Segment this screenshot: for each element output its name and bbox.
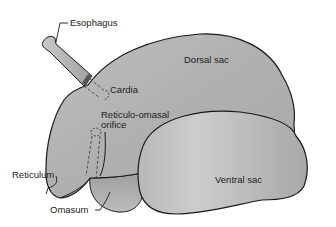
- label-cardia: Cardia: [110, 84, 139, 95]
- label-omasum: Omasum: [50, 204, 89, 215]
- esophagus-leader: [56, 23, 68, 42]
- ventral-sac-shape: [138, 111, 307, 214]
- label-ventral-sac: Ventral sac: [215, 174, 262, 185]
- stomach-diagram: Esophagus Cardia Dorsal sac Reticulo-oma…: [0, 0, 336, 227]
- label-esophagus: Esophagus: [70, 17, 118, 28]
- label-reticulo-omasal-2: orifice: [101, 119, 126, 130]
- label-dorsal-sac: Dorsal sac: [184, 54, 229, 65]
- label-reticulum: Reticulum: [12, 169, 54, 180]
- esophagus-shape: [42, 36, 92, 86]
